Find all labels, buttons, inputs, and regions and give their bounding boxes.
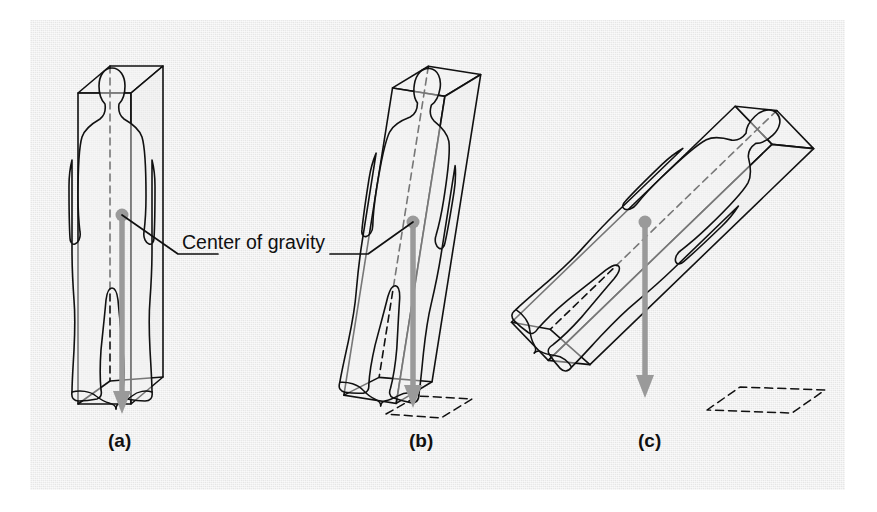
- panel-caption-a: (a): [108, 430, 131, 452]
- panel-a-group: [69, 66, 163, 414]
- panel-c-base-of-support: [707, 387, 825, 413]
- panel-b-group: [334, 60, 480, 413]
- panel-caption-b: (b): [409, 430, 433, 452]
- figure-illustration: [0, 0, 877, 512]
- panel-caption-c: (c): [638, 430, 661, 452]
- figure-root: Center of gravity (a) (b) (c): [0, 0, 877, 512]
- panel-c-group: [502, 81, 814, 387]
- center-of-gravity-label: Center of gravity: [182, 231, 325, 254]
